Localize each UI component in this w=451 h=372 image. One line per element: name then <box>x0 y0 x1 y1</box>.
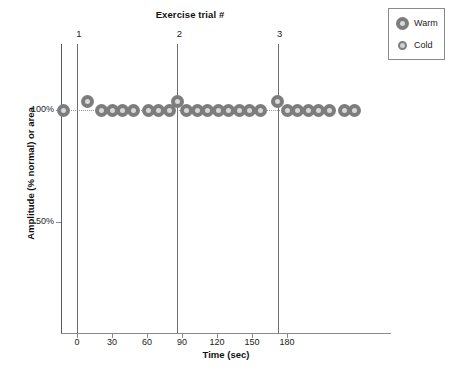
x-axis-tick-label: 180 <box>267 337 307 347</box>
trial-number-label: 1 <box>67 28 91 39</box>
x-axis-title: Time (sec) <box>61 349 391 360</box>
legend-entry-cold: Cold <box>395 38 433 52</box>
x-axis-tick-label: 120 <box>197 337 237 347</box>
legend-swatch-warm-icon <box>395 16 409 30</box>
y-axis-tick-label: 100% <box>10 104 54 114</box>
data-point-marker <box>81 95 94 108</box>
data-point-marker <box>57 104 70 117</box>
trial-divider-line <box>77 44 78 333</box>
legend-label-cold: Cold <box>414 40 433 50</box>
x-axis-tick-label: 30 <box>92 337 132 347</box>
legend-swatch-cold-icon <box>395 38 409 52</box>
chart-canvas: Exercise trial # Time (sec) Amplitude (%… <box>0 0 451 372</box>
y-axis-tick-label: 50% <box>10 216 54 226</box>
y-axis-title: Amplitude (% normal) or area <box>25 64 36 284</box>
legend-label-warm: Warm <box>414 18 438 28</box>
y-axis-line <box>61 44 62 333</box>
legend-entry-warm: Warm <box>395 16 438 30</box>
trial-divider-line <box>278 44 279 333</box>
trial-number-label: 3 <box>268 28 292 39</box>
x-axis-tick-label: 90 <box>162 337 202 347</box>
data-point-marker <box>127 104 140 117</box>
data-point-marker <box>323 104 336 117</box>
y-axis-tick <box>56 222 61 223</box>
x-axis-tick-label: 150 <box>232 337 272 347</box>
trial-divider-line <box>177 44 178 333</box>
x-axis-tick-label: 0 <box>57 337 97 347</box>
data-point-marker <box>348 104 361 117</box>
trial-number-label: 2 <box>167 28 191 39</box>
x-axis-tick-label: 60 <box>127 337 167 347</box>
chart-title: Exercise trial # <box>0 9 380 20</box>
x-axis-line <box>61 333 391 334</box>
legend: Warm Cold <box>388 8 445 60</box>
data-point-marker <box>254 104 267 117</box>
